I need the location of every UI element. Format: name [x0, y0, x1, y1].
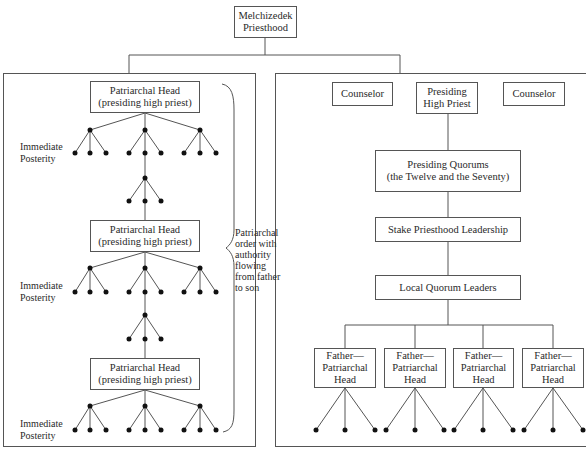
stake-priesthood-leadership-box: Stake Priesthood Leadership: [375, 217, 521, 242]
immediate-posterity-label-3: Immediate Posterity: [20, 418, 63, 441]
patriarchal-head-box-1: Patriarchal Head (presiding high priest): [90, 81, 200, 113]
presiding-high-priest-box: Presiding High Priest: [416, 82, 478, 114]
immediate-posterity-label-1: Immediate Posterity: [20, 141, 63, 164]
left-panel-patriarchal-order: [3, 73, 256, 447]
patriarchal-head-box-3: Patriarchal Head (presiding high priest): [90, 358, 200, 390]
father-patriarchal-head-box-4: Father— Patriarchal Head: [522, 348, 584, 388]
presiding-quorums-box: Presiding Quorums (the Twelve and the Se…: [375, 150, 521, 192]
brace-annotation: Patriarchal order with authority flowing…: [235, 227, 280, 293]
father-patriarchal-head-box-3: Father— Patriarchal Head: [453, 348, 514, 388]
immediate-posterity-label-2: Immediate Posterity: [20, 280, 63, 303]
patriarchal-head-box-2: Patriarchal Head (presiding high priest): [90, 220, 200, 252]
right-panel-church-order: [275, 73, 586, 447]
father-patriarchal-head-box-2: Father— Patriarchal Head: [384, 348, 446, 388]
counselor-box-left: Counselor: [332, 82, 393, 106]
counselor-box-right: Counselor: [503, 82, 565, 106]
local-quorum-leaders-box: Local Quorum Leaders: [375, 275, 521, 300]
father-patriarchal-head-box-1: Father— Patriarchal Head: [314, 348, 376, 388]
root-melchizedek-priesthood: Melchizedek Priesthood: [234, 6, 297, 38]
